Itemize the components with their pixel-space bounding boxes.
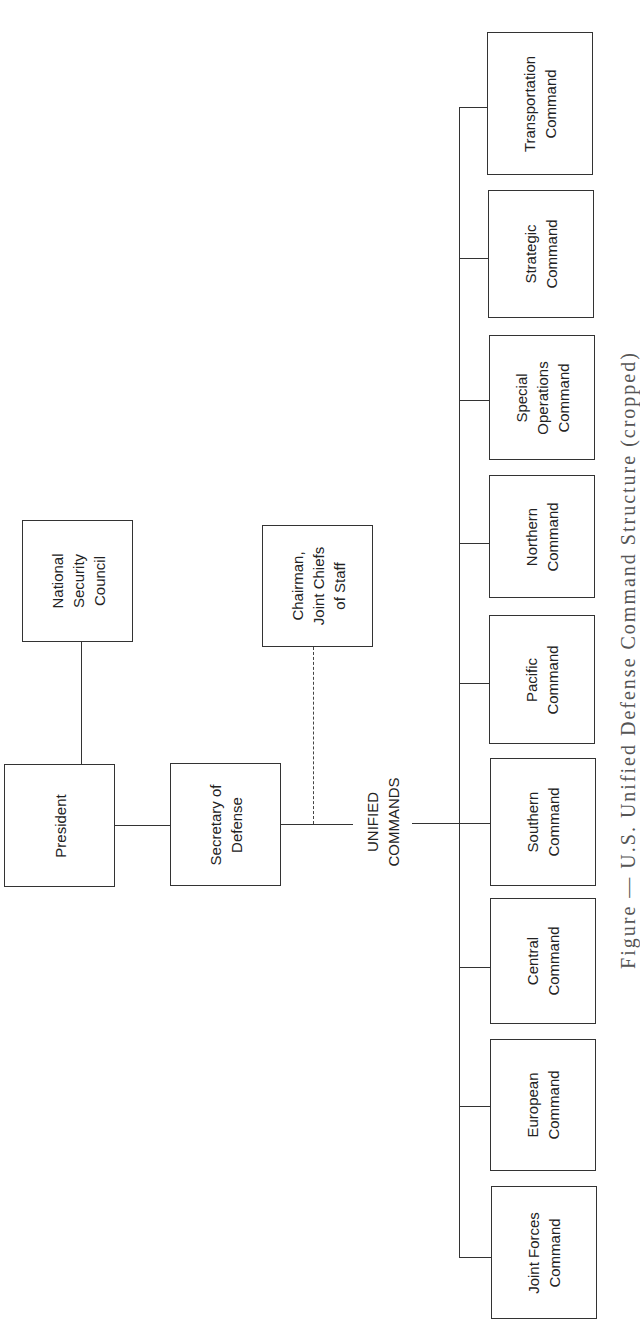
command-box-joint-forces: Joint Forces Command <box>491 1186 597 1319</box>
cjcs-label: Chairman, Joint Chiefs of Staff <box>286 547 349 625</box>
command-label: Strategic Command <box>520 219 562 288</box>
command-label: Southern Command <box>522 787 564 856</box>
president-label: President <box>49 794 70 857</box>
command-box-special-operations: Special Operations Command <box>489 335 595 460</box>
command-label: Central Command <box>522 926 564 995</box>
cjcs-dashed-connector <box>313 647 314 824</box>
unified-trunk-connector <box>412 823 460 824</box>
command-stub <box>459 823 490 824</box>
unified-commands-label: UNIFIED COMMANDS <box>362 777 404 866</box>
secretary-of-defense-box: Secretary of Defense <box>170 763 281 886</box>
command-label: European Command <box>522 1070 564 1139</box>
command-label: Special Operations Command <box>511 361 574 434</box>
figure-caption: Figure — U.S. Unified Defense Command St… <box>617 351 640 969</box>
command-label: Pacific Command <box>521 645 563 714</box>
command-label: Transportation Command <box>519 55 561 151</box>
command-box-european: European Command <box>490 1039 596 1171</box>
command-box-transportation: Transportation Command <box>487 32 593 175</box>
chairman-joint-chiefs-box: Chairman, Joint Chiefs of Staff <box>262 525 373 647</box>
secdef-label: Secretary of Defense <box>205 784 247 865</box>
command-stub <box>459 967 490 968</box>
secdef-unified-connector <box>281 824 353 825</box>
command-stub <box>459 400 489 401</box>
command-label: Northern Command <box>521 502 563 571</box>
command-stub <box>459 683 489 684</box>
command-label: Joint Forces Command <box>523 1212 565 1294</box>
command-box-northern: Northern Command <box>489 475 595 598</box>
nsc-label: National Security Council <box>46 553 109 608</box>
command-box-central: Central Command <box>490 898 596 1024</box>
command-stub <box>459 543 489 544</box>
command-stub <box>459 107 487 108</box>
national-security-council-box: National Security Council <box>22 520 133 642</box>
command-box-pacific: Pacific Command <box>489 615 595 744</box>
command-stub <box>459 1257 491 1258</box>
command-stub <box>459 1106 490 1107</box>
command-box-southern: Southern Command <box>490 758 596 886</box>
command-stub <box>459 258 488 259</box>
president-box: President <box>4 764 115 887</box>
command-box-strategic: Strategic Command <box>488 190 594 318</box>
nsc-president-connector <box>81 642 82 764</box>
president-secdef-connector <box>115 825 170 826</box>
commands-trunk <box>459 107 460 1257</box>
